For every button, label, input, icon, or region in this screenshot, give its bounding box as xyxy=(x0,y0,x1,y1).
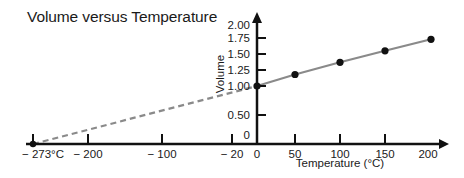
data-point-marker xyxy=(291,71,298,78)
absolute-zero-marker xyxy=(30,141,36,147)
series-line-measured xyxy=(257,39,431,86)
y-tick-label: 0 xyxy=(244,129,250,141)
chart: Volume versus Temperature − 273°C− 200− … xyxy=(0,0,464,178)
x-tick-label: 200 xyxy=(418,148,437,160)
y-tick-label: 1.25 xyxy=(228,64,250,76)
data-point-marker xyxy=(381,47,388,54)
data-point-marker xyxy=(427,36,434,43)
x-axis-arrow-icon xyxy=(439,139,449,149)
y-tick-label: 1.00 xyxy=(228,80,250,92)
data-point-marker xyxy=(336,59,343,66)
plot-area: − 273°C− 200− 100− 2005010015020000.501.… xyxy=(0,0,464,178)
x-tick-label: − 200 xyxy=(73,148,102,160)
y-tick-label: 1.50 xyxy=(228,48,250,60)
x-tick-label: − 100 xyxy=(147,148,176,160)
y-axis-label: Volume xyxy=(214,55,226,93)
y-tick-label: 0.50 xyxy=(228,109,250,121)
x-tick-label: − 273°C xyxy=(22,148,64,160)
x-tick-label: − 20 xyxy=(221,148,244,160)
data-point-marker xyxy=(253,82,260,89)
y-axis-arrow-icon xyxy=(252,12,262,23)
x-axis-label: Temperature (°C) xyxy=(296,157,384,169)
x-tick-label: 0 xyxy=(254,148,260,160)
y-tick-label: 1.75 xyxy=(228,32,250,44)
y-tick-label: 2.00 xyxy=(228,19,250,31)
series-line-extrapolated xyxy=(33,86,257,144)
